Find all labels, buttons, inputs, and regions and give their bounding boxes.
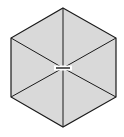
hexagon-diagram: [0, 0, 124, 137]
